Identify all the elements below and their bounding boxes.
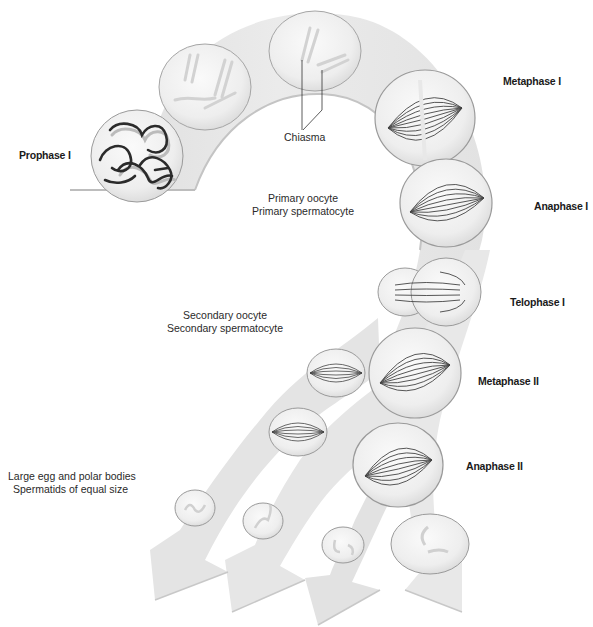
label-prophase-1: Prophase I [19, 149, 71, 161]
label-spermatids-equal-size: Spermatids of equal size [8, 483, 133, 496]
meiosis-diagram [0, 0, 593, 627]
prophase-cell-2 [159, 44, 251, 130]
label-large-egg-polar-bodies: Large egg and polar bodies [8, 470, 133, 483]
polar-body-3 [322, 527, 364, 563]
anaphase-2-large-cell [353, 423, 443, 507]
label-products: Large egg and polar bodies Spermatids of… [8, 470, 133, 496]
label-primary-cells: Primary oocyte Primary spermatocyte [248, 192, 358, 218]
polar-body-2 [243, 503, 283, 539]
chiasma-cell [269, 11, 361, 130]
label-anaphase-1: Anaphase I [534, 200, 588, 212]
label-metaphase-1: Metaphase I [503, 75, 561, 87]
label-secondary-spermatocyte: Secondary spermatocyte [165, 322, 285, 335]
label-anaphase-2: Anaphase II [466, 460, 523, 472]
metaphase-2-small-cell [307, 349, 365, 397]
polar-body-1 [175, 490, 215, 526]
label-telophase-1: Telophase I [510, 296, 565, 308]
label-metaphase-2: Metaphase II [478, 375, 539, 387]
anaphase-1-cell [400, 159, 492, 247]
label-chiasma: Chiasma [284, 131, 325, 144]
anaphase-2-small-cell [269, 408, 327, 456]
label-primary-oocyte: Primary oocyte [248, 192, 358, 205]
label-primary-spermatocyte: Primary spermatocyte [248, 205, 358, 218]
prophase-1-cell [91, 110, 183, 202]
label-secondary-oocyte: Secondary oocyte [165, 309, 285, 322]
telophase-1-cell [378, 258, 481, 326]
metaphase-2-large-cell [369, 328, 461, 418]
large-egg-cell [391, 514, 469, 574]
metaphase-1-cell [375, 70, 475, 166]
label-secondary-cells: Secondary oocyte Secondary spermatocyte [165, 309, 285, 335]
